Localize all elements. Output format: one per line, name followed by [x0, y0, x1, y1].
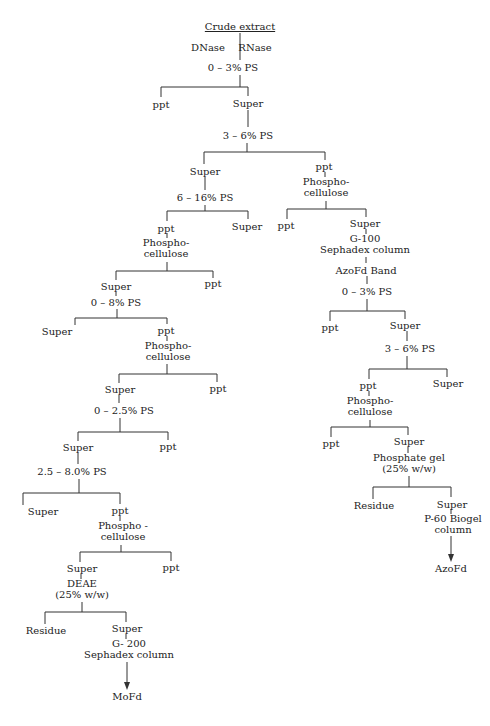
- node-ppt4: ppt: [205, 278, 222, 289]
- arrow-head-azofd: [448, 554, 454, 562]
- node-ps0_3: 0 – 3% PS: [208, 62, 258, 73]
- node-ps0_2_5: 0 – 2.5% PS: [94, 405, 154, 416]
- node-ppt11: ppt: [322, 322, 339, 333]
- node-ps2_5_8: 2.5 – 8.0% PS: [37, 466, 106, 477]
- node-super12: Super: [390, 320, 420, 331]
- node-ps6_16: 6 – 16% PS: [177, 192, 234, 203]
- node-super9: Super: [67, 563, 97, 574]
- node-ps3_6: 3 – 6% PS: [223, 130, 273, 141]
- node-pc4: Phospho-cellulose: [303, 176, 350, 198]
- node-p60: P-60 Biogelcolumn: [424, 513, 482, 535]
- node-ps0_8: 0 – 8% PS: [91, 297, 141, 308]
- node-super4: Super: [101, 281, 131, 292]
- node-pc2: Phospho-cellulose: [145, 340, 192, 362]
- node-azofd_band: AzoFd Band: [335, 265, 396, 276]
- node-super11: Super: [350, 218, 380, 229]
- node-dnase: DNase: [191, 42, 225, 53]
- node-ps3_6b: 3 – 6% PS: [385, 343, 435, 354]
- node-azofd: AzoFd: [435, 563, 467, 574]
- node-g200: G- 200Sephadex column: [84, 638, 174, 660]
- node-pc1: Phospho-cellulose: [143, 237, 190, 259]
- node-deae: DEAE(25% w/w): [55, 578, 109, 600]
- arrow-head-mofd: [124, 682, 130, 690]
- node-super1: Super: [233, 98, 263, 109]
- node-ppt2: ppt: [316, 161, 333, 172]
- node-ppt9: ppt: [163, 562, 180, 573]
- node-pc3: Phospho -cellulose: [98, 520, 148, 542]
- node-super8: Super: [28, 506, 58, 517]
- node-rnase: RNase: [238, 42, 271, 53]
- node-super13: Super: [433, 378, 463, 389]
- node-ppt7: ppt: [160, 441, 177, 452]
- node-super3: Super: [232, 221, 262, 232]
- node-super5: Super: [42, 326, 72, 337]
- node-ppt8: ppt: [112, 505, 129, 516]
- node-phosgel: Phosphate gel(25% w/w): [373, 452, 445, 474]
- node-super10: Super: [112, 623, 142, 634]
- node-g100: G-100Sephadex column: [320, 233, 410, 255]
- node-ppt6: ppt: [210, 383, 227, 394]
- node-super14: Super: [394, 436, 424, 447]
- node-residue1: Residue: [26, 625, 67, 636]
- node-ppt5: ppt: [158, 325, 175, 336]
- node-crude: Crude extract: [205, 21, 275, 32]
- node-ppt13: ppt: [323, 438, 340, 449]
- node-super15: Super: [437, 499, 467, 510]
- node-ppt1: ppt: [153, 99, 170, 110]
- node-super6: Super: [105, 384, 135, 395]
- node-pc5: Phospho-cellulose: [347, 395, 394, 417]
- node-residue2: Residue: [354, 500, 395, 511]
- node-ppt12: ppt: [360, 380, 377, 391]
- node-ps0_3b: 0 – 3% PS: [342, 286, 392, 297]
- node-ppt10: ppt: [278, 220, 295, 231]
- node-ppt3: ppt: [158, 223, 175, 234]
- node-super2: Super: [190, 166, 220, 177]
- node-mofd: MoFd: [112, 691, 142, 702]
- node-super7: Super: [63, 442, 93, 453]
